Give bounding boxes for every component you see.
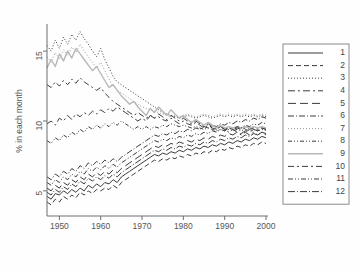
x-tick-label: 1970 bbox=[133, 221, 152, 231]
series-line-7 bbox=[47, 44, 266, 117]
series-line-1 bbox=[47, 136, 266, 199]
legend-label-2[interactable]: 2 bbox=[340, 60, 345, 70]
x-tick-label: 2000 bbox=[257, 221, 276, 231]
legend-label-11[interactable]: 11 bbox=[336, 173, 345, 183]
series-line-10 bbox=[47, 78, 266, 130]
legend-label-3[interactable]: 3 bbox=[340, 72, 345, 82]
series-line-5 bbox=[47, 128, 266, 191]
plot-area bbox=[47, 32, 266, 205]
legend-label-1[interactable]: 1 bbox=[340, 47, 345, 57]
x-tick-label: 1980 bbox=[174, 221, 193, 231]
legend-label-10[interactable]: 10 bbox=[336, 161, 346, 171]
chart-legend[interactable]: 123456789101112 bbox=[283, 44, 349, 204]
series-line-11 bbox=[47, 122, 266, 185]
y-axis-title: % in each month bbox=[14, 89, 24, 153]
legend-label-9[interactable]: 9 bbox=[340, 148, 345, 158]
x-tick-label: 1960 bbox=[91, 221, 110, 231]
legend-label-4[interactable]: 4 bbox=[340, 85, 345, 95]
chart-figure: 51015195019601970198019902000% in each m… bbox=[0, 0, 360, 272]
series-line-3 bbox=[47, 32, 266, 119]
legend-label-7[interactable]: 7 bbox=[340, 123, 345, 133]
line-chart: 51015195019601970198019902000% in each m… bbox=[0, 0, 360, 272]
legend-label-5[interactable]: 5 bbox=[340, 98, 345, 108]
y-tick-label: 15 bbox=[34, 51, 44, 61]
legend-label-12[interactable]: 12 bbox=[336, 186, 346, 196]
legend-label-8[interactable]: 8 bbox=[340, 135, 345, 145]
legend-label-6[interactable]: 6 bbox=[340, 110, 345, 120]
series-line-4 bbox=[47, 107, 266, 135]
y-tick-label: 10 bbox=[34, 121, 44, 131]
x-tick-label: 1990 bbox=[215, 221, 234, 231]
y-tick-label: 5 bbox=[34, 191, 44, 196]
series-line-8 bbox=[47, 121, 266, 143]
x-tick-label: 1950 bbox=[50, 221, 69, 231]
